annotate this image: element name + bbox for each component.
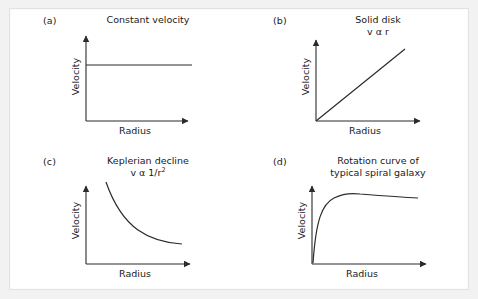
curve-spiral-galaxy-rotation xyxy=(313,193,418,263)
curve-solid-disk xyxy=(316,49,405,121)
panel-keplerian-decline: (c) Keplerian decline v α 1/r2 xyxy=(10,150,240,291)
panel-solid-disk: (b) Solid disk v α r Radiu xyxy=(240,9,470,150)
curve-keplerian-decline xyxy=(106,182,182,244)
x-axis-label-c: Radius xyxy=(95,268,175,279)
x-axis-label-a: Radius xyxy=(95,125,175,136)
x-axis-label-b: Radius xyxy=(325,125,405,136)
y-axis-label-a: Velocity xyxy=(70,47,81,107)
y-axis-label-d: Velocity xyxy=(296,191,307,251)
panel-constant-velocity: (a) Constant velocity xyxy=(10,9,240,150)
figure-root: (a) Constant velocity xyxy=(0,0,478,299)
figure-frame: (a) Constant velocity xyxy=(9,8,469,290)
x-axis-label-d: Radius xyxy=(322,268,402,279)
y-axis-label-b: Velocity xyxy=(300,47,311,107)
panel-spiral-galaxy-rotation-curve: (d) Rotation curve of typical spiral gal… xyxy=(240,150,470,291)
y-axis-label-c: Velocity xyxy=(70,191,81,251)
